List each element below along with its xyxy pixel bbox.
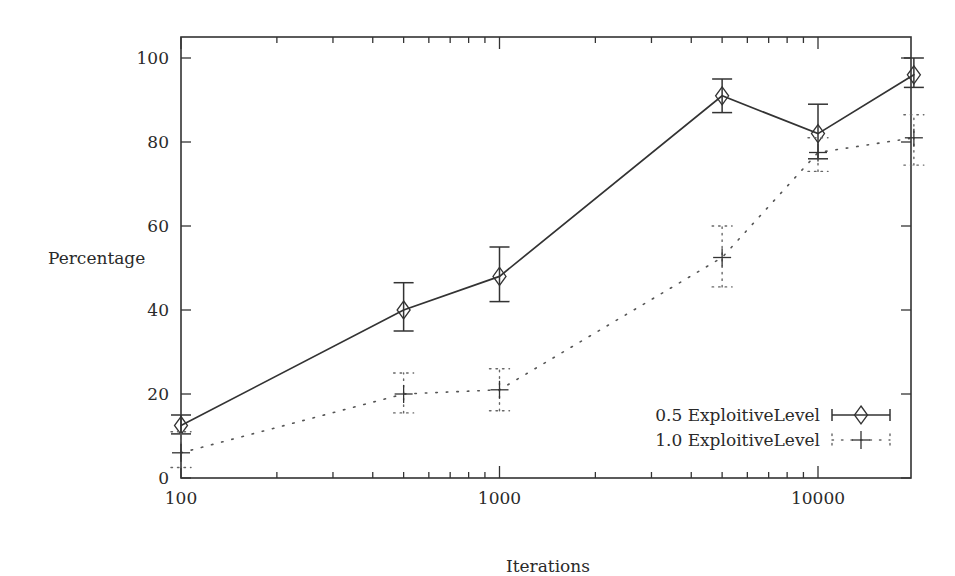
error-bar (490, 247, 510, 302)
y-tick-label: 20 (147, 384, 169, 404)
x-tick-label: 1000 (478, 488, 521, 508)
x-tick-label: 100 (165, 488, 197, 508)
y-tick-label: 100 (137, 48, 169, 68)
x-axis-label: Iterations (506, 556, 590, 576)
y-tick-label: 80 (147, 132, 169, 152)
y-tick-label: 60 (147, 216, 169, 236)
y-tick-label: 40 (147, 300, 169, 320)
plus-marker (491, 381, 509, 399)
legend-swatch (832, 431, 890, 449)
legend-label: 0.5 ExploitiveLevel (655, 405, 820, 425)
legend-label: 1.0 ExploitiveLevel (655, 430, 820, 450)
y-axis-label: Percentage (48, 248, 145, 268)
legend-swatch (832, 406, 890, 424)
plus-marker (905, 129, 923, 147)
series-1 (171, 58, 924, 435)
y-tick-label: 0 (158, 468, 169, 488)
x-tick-label: 10000 (791, 488, 845, 508)
plus-marker (713, 249, 731, 267)
error-bar (171, 415, 191, 434)
legend: 0.5 ExploitiveLevel1.0 ExploitiveLevel (655, 405, 890, 450)
legend-plus-icon (852, 431, 870, 449)
plus-marker (172, 444, 190, 462)
plus-marker (395, 385, 413, 403)
line-chart: 020406080100 100100010000 Percentage Ite… (0, 0, 955, 576)
series-line (181, 75, 914, 426)
